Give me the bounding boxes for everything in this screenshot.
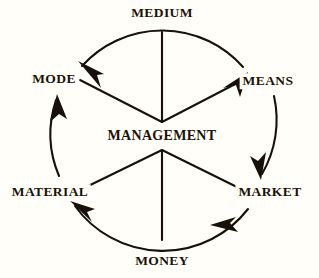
- center-label-management: MANAGEMENT: [105, 128, 220, 144]
- arrowhead-toward-mode-left: [50, 94, 67, 122]
- spoke-to-material: [80, 150, 162, 190]
- arrowhead-toward-mode-top: [78, 61, 104, 88]
- node-label-market: MARKET: [235, 184, 304, 200]
- arrowhead-toward-material: [70, 201, 95, 222]
- arrowhead-toward-market: [250, 152, 266, 180]
- spoke-to-means: [162, 80, 243, 122]
- node-label-mode: MODE: [29, 71, 79, 87]
- node-label-medium: MEDIUM: [128, 5, 196, 21]
- management-wheel-diagram: MEDIUM MEANS MARKET MONEY MATERIAL MODE …: [0, 0, 319, 278]
- arc-means-market: [262, 96, 277, 174]
- spoke-to-market: [162, 150, 243, 190]
- spoke-to-mode: [80, 80, 162, 122]
- node-label-means: MEANS: [240, 73, 297, 89]
- node-label-money: MONEY: [132, 253, 192, 269]
- node-label-material: MATERIAL: [9, 184, 91, 200]
